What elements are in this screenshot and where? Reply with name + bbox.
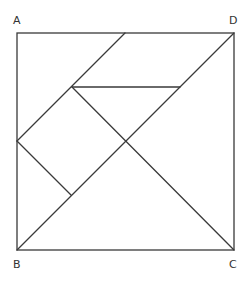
tangram-diagram: A D B C — [0, 0, 252, 284]
label-a: A — [13, 14, 21, 27]
diagonal-to-c — [72, 87, 234, 250]
small-square-edge — [17, 141, 71, 195]
label-b: B — [13, 258, 21, 271]
label-c: C — [229, 258, 237, 271]
label-d: D — [229, 14, 237, 27]
